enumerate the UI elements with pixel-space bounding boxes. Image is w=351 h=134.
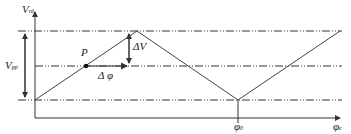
delta-v-label: ΔV (133, 41, 146, 52)
diagram-canvas (0, 0, 351, 134)
point-p-label: P (81, 47, 88, 58)
reference-lines (18, 31, 342, 100)
phi0-label: φ0 (234, 121, 243, 132)
delta-phi-label: Δ φ (98, 70, 113, 81)
point-p (84, 64, 88, 68)
vpp-label: Vpp (5, 60, 18, 71)
x-axis-label: φe (333, 121, 342, 132)
y-axis-label: Vrd (22, 4, 34, 15)
